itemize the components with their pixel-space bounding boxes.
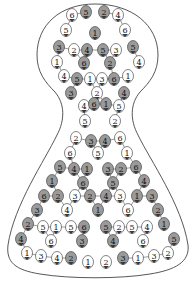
cell-number: 2 — [101, 8, 106, 17]
puzzle-cell: 3 — [147, 190, 158, 204]
cell-number: 6 — [69, 11, 74, 20]
puzzle-cell: 1 — [82, 163, 93, 177]
cell-number: 6 — [48, 237, 53, 246]
puzzle-cell: 2 — [69, 44, 80, 58]
cell-number: 1 — [53, 223, 58, 232]
puzzle-cell: 5 — [108, 177, 119, 191]
puzzle-cell: 5 — [81, 6, 92, 20]
cell-number: 1 — [85, 258, 90, 267]
puzzle-cell: 6 — [65, 147, 76, 161]
puzzle-cell: 4 — [52, 252, 63, 266]
puzzle-cell: 4 — [69, 163, 80, 177]
puzzle-cell: 5 — [98, 44, 109, 58]
puzzle-cell: 1 — [101, 98, 112, 112]
puzzle-cell: 3 — [54, 41, 65, 55]
puzzle-cell: 5 — [38, 221, 49, 235]
cell-number: 4 — [81, 102, 86, 111]
puzzle-cell: 2 — [85, 190, 96, 204]
cell-number: 5 — [103, 223, 108, 232]
puzzle-cell: 4 — [82, 44, 93, 58]
cell-number: 1 — [87, 75, 92, 84]
puzzle-cell: 2 — [71, 132, 82, 146]
cell-number: 4 — [144, 223, 149, 232]
flask-puzzle-diagram: 6524516324535162445136132446155223466515… — [0, 0, 195, 284]
cell-number: 1 — [54, 58, 59, 67]
cell-number: 2 — [116, 223, 121, 232]
cell-number: 5 — [100, 46, 105, 55]
cell-number: 6 — [117, 134, 122, 143]
cell-number: 2 — [103, 258, 108, 267]
puzzle-cell: 2 — [116, 163, 127, 177]
cell-number: 4 — [136, 58, 141, 67]
puzzle-cell: 3 — [32, 204, 43, 218]
cell-number: 6 — [67, 149, 72, 158]
puzzle-cell: 6 — [131, 161, 142, 175]
puzzle-cell: 1 — [132, 190, 143, 204]
cell-number: 4 — [71, 165, 76, 174]
cell-number: 5 — [130, 43, 135, 52]
puzzle-cell: 4 — [59, 70, 70, 84]
puzzle-cell: 5 — [127, 221, 138, 235]
cell-number: 6 — [111, 75, 116, 84]
puzzle-cell: 4 — [101, 190, 112, 204]
puzzle-cell: 2 — [101, 256, 112, 270]
puzzle-cell: 4 — [113, 9, 124, 23]
cell-number: 1 — [103, 100, 108, 109]
cell-number: 2 — [73, 134, 78, 143]
puzzle-cell: 3 — [103, 163, 114, 177]
cell-number: 4 — [61, 72, 66, 81]
puzzle-cell: 3 — [149, 250, 160, 264]
cell-number: 3 — [88, 137, 93, 146]
cell-number: 6 — [41, 192, 46, 201]
cell-number: 1 — [161, 220, 166, 229]
cell-number: 3 — [56, 43, 61, 52]
puzzle-cell: 4 — [134, 56, 145, 70]
cell-number: 3 — [38, 252, 43, 261]
puzzle-cell: 3 — [77, 235, 88, 249]
puzzle-cell: 6 — [120, 24, 131, 38]
cell-number: 3 — [120, 254, 125, 263]
puzzle-cell: 5 — [128, 41, 139, 55]
puzzle-cell: 5 — [61, 24, 72, 38]
puzzle-cell: 2 — [110, 115, 121, 129]
puzzle-cell: 5 — [114, 100, 125, 114]
cell-number: 2 — [107, 59, 112, 68]
puzzle-cell: 3 — [111, 44, 122, 58]
cell-number: 3 — [72, 192, 77, 201]
puzzle-cell: 3 — [36, 250, 47, 264]
puzzle-cell: 5 — [55, 161, 66, 175]
puzzle-cell: 1 — [159, 218, 170, 232]
cell-number: 5 — [82, 117, 87, 126]
puzzle-cell: 3 — [66, 87, 77, 101]
puzzle-cell: 4 — [16, 233, 27, 247]
puzzle-cell: 1 — [133, 252, 144, 266]
cell-number: 4 — [54, 254, 59, 263]
puzzle-cell: 2 — [163, 247, 174, 261]
puzzle-cell: 5 — [93, 147, 104, 161]
cell-number: 6 — [81, 59, 86, 68]
puzzle-cell: 6 — [115, 132, 126, 146]
cell-number: 5 — [83, 8, 88, 17]
puzzle-cell: 5 — [72, 73, 83, 87]
puzzle-cell: 6 — [138, 235, 149, 249]
puzzle-cell: 2 — [153, 204, 164, 218]
cell-number: 4 — [141, 177, 146, 186]
cell-number: 1 — [95, 206, 100, 215]
puzzle-cell: 1 — [122, 147, 133, 161]
puzzle-cell: 4 — [142, 221, 153, 235]
cell-number: 2 — [155, 206, 160, 215]
cell-number: 5 — [40, 223, 45, 232]
puzzle-cell: 1 — [52, 56, 63, 70]
puzzle-cell: 1 — [90, 27, 101, 41]
cell-number: 5 — [171, 235, 176, 244]
cell-number: 5 — [68, 223, 73, 232]
cell-number: 6 — [122, 26, 127, 35]
puzzle-cell: 2 — [105, 57, 116, 71]
puzzle-cell: 3 — [115, 190, 126, 204]
puzzle-cell: 3 — [86, 135, 97, 149]
cell-number: 2 — [94, 89, 99, 98]
puzzle-cell: 2 — [23, 218, 34, 232]
cell-number: 3 — [117, 192, 122, 201]
puzzle-cell: 1 — [85, 73, 96, 87]
puzzle-cell: 4 — [139, 175, 150, 189]
